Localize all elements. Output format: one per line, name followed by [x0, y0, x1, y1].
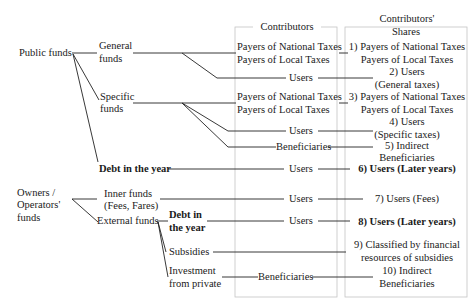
header-contributors: Contributors [253, 21, 321, 34]
share-3-line1: 3) Payers of National Taxes [347, 91, 467, 104]
share-2-line2: (General taxes) [347, 79, 467, 92]
share-5-line1: 5) Indirect [347, 140, 467, 153]
fund-specific-line2: funds [100, 103, 123, 116]
fund-subsidies: Subsidies [169, 246, 209, 259]
fund-general-line2: funds [99, 53, 122, 66]
share-1-line2: Payers of Local Taxes [347, 54, 467, 67]
fund-inner-line2: (Fees, Fares) [104, 200, 158, 213]
source-owners-line1: Owners / [17, 187, 55, 200]
share-4-line1: 4) Users [347, 116, 467, 129]
fund-debt-external-line1: Debt in [169, 209, 202, 222]
share-7: 7) Users (Fees) [347, 193, 467, 206]
contrib-users-4: Users [284, 193, 318, 206]
contrib-beneficiaries-1: Beneficiaries [276, 141, 328, 154]
contrib-users-2: Users [284, 125, 318, 138]
fund-debt-public: Debt in the year [99, 163, 171, 176]
share-10-line2: Beneficiaries [347, 278, 467, 291]
contrib-users-3: Users [284, 163, 318, 176]
share-3-line2: Payers of Local Taxes [347, 104, 467, 117]
contrib-local-taxes-2: Payers of Local Taxes [237, 104, 330, 117]
contributors-column-box [235, 27, 337, 297]
contrib-national-taxes-1: Payers of National Taxes [237, 41, 342, 54]
contrib-national-taxes-2: Payers of National Taxes [237, 91, 342, 104]
contrib-users-5: Users [284, 215, 318, 228]
fund-external: External funds [97, 215, 159, 228]
fund-investment-line1: Investment [169, 265, 216, 278]
fund-inner-line1: Inner funds [104, 188, 152, 201]
contrib-beneficiaries-2: Beneficiaries [258, 271, 312, 284]
contrib-local-taxes-1: Payers of Local Taxes [237, 54, 330, 67]
header-shares-line2: Shares [368, 26, 444, 39]
share-6: 6) Users (Later years) [347, 163, 467, 176]
header-shares-line1: Contributors' [368, 13, 446, 26]
source-owners-line2: Operators' [17, 199, 60, 212]
share-2-line1: 2) Users [347, 66, 467, 79]
source-public-funds: Public funds [19, 47, 72, 60]
fund-specific-line1: Specific [100, 91, 134, 104]
share-1-line1: 1) Payers of National Taxes [347, 41, 467, 54]
fund-investment-line2: from private [169, 278, 221, 291]
share-8: 8) Users (Later years) [347, 216, 467, 229]
fund-general-line1: General [99, 40, 132, 53]
contrib-users-1: Users [284, 72, 318, 85]
fund-debt-external-line2: the year [169, 222, 205, 235]
share-10-line1: 10) Indirect [347, 265, 467, 278]
source-owners-line3: funds [17, 212, 40, 225]
share-9-line1: 9) Classified by financial [347, 239, 467, 252]
share-9-line2: resources of subsidies [347, 252, 467, 265]
